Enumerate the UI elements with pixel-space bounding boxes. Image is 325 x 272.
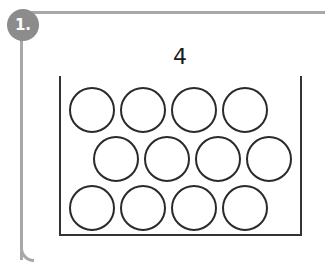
counter-circle[interactable] (69, 87, 115, 133)
counter-circle[interactable] (144, 136, 190, 182)
frame-top-line (30, 11, 325, 14)
counter-circle[interactable] (120, 185, 166, 231)
counter-circle[interactable] (195, 136, 241, 182)
counter-circle[interactable] (93, 136, 139, 182)
question-number-badge: 1. (7, 9, 39, 41)
counter-circle[interactable] (222, 87, 268, 133)
counter-circle[interactable] (171, 185, 217, 231)
frame-left-line (20, 36, 23, 260)
counter-circle[interactable] (222, 185, 268, 231)
counter-circle[interactable] (171, 87, 217, 133)
counter-circle[interactable] (69, 185, 115, 231)
counter-circle[interactable] (120, 87, 166, 133)
counter-circle[interactable] (246, 136, 292, 182)
target-number: 4 (160, 44, 200, 70)
